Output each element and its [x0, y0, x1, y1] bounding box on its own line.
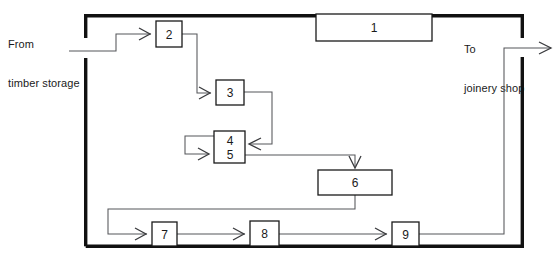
node-label: 2	[166, 28, 173, 42]
process-node-9[interactable]: 9	[392, 222, 419, 246]
connector-node-45-to-node-6	[245, 155, 361, 168]
node-label: 6	[352, 176, 359, 190]
process-node-7[interactable]: 7	[152, 222, 177, 246]
node-label-top: 4	[227, 134, 234, 148]
connector-node-3-to-node-45	[244, 92, 272, 150]
connector-line	[182, 34, 211, 93]
node-label: 3	[227, 86, 234, 100]
connector-line	[185, 136, 214, 154]
process-node-8[interactable]: 8	[250, 221, 279, 246]
diagram-canvas: From timber storage To joinery shop	[0, 0, 558, 258]
connector-node-7-to-node-8	[177, 228, 245, 240]
connector-line	[419, 48, 551, 234]
connector-input-to-node-2	[69, 28, 151, 51]
process-node-4-5[interactable]: 4 5	[214, 131, 245, 163]
plant-boundary-frame	[84, 16, 524, 247]
connector-line	[244, 92, 272, 144]
connector-line	[108, 195, 355, 234]
node-label: 8	[261, 227, 268, 241]
node-label: 1	[371, 21, 378, 35]
connector-line	[69, 34, 151, 51]
process-node-3[interactable]: 3	[216, 80, 244, 105]
connector-node-2-to-node-3	[182, 34, 211, 99]
connector-node-45-recirculation-loop	[185, 136, 214, 160]
connector-line	[245, 155, 355, 166]
connector-node-9-to-output	[419, 42, 551, 234]
process-node-6[interactable]: 6	[318, 170, 392, 195]
node-label: 7	[161, 228, 168, 242]
process-node-1[interactable]: 1	[316, 14, 432, 41]
process-node-2[interactable]: 2	[156, 21, 182, 47]
node-label: 9	[402, 228, 409, 242]
node-label-bottom: 5	[227, 148, 234, 162]
connector-node-6-to-node-7	[108, 195, 355, 240]
connector-node-8-to-node-9	[279, 228, 387, 240]
process-flow-svg: 1 2 3 4 5 6 7 8 9	[0, 0, 558, 258]
